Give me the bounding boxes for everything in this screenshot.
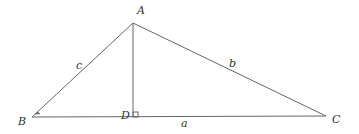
label-a-vertex: A xyxy=(136,4,145,17)
label-side-c: c xyxy=(76,59,82,72)
side-c xyxy=(32,23,133,117)
label-side-b: b xyxy=(229,57,236,70)
label-c-vertex: C xyxy=(332,113,341,126)
label-side-a: a xyxy=(181,117,188,130)
triangle-diagram: A B C D c b a xyxy=(0,0,359,134)
label-d-point: D xyxy=(120,109,130,122)
side-a xyxy=(32,116,326,117)
label-b-vertex: B xyxy=(17,115,26,128)
